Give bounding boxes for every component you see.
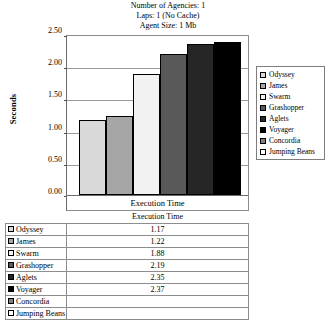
table-swatch-icon xyxy=(8,238,14,244)
table-cell-name: Jumping Beans xyxy=(6,307,67,319)
table-cell-value xyxy=(67,307,249,319)
table-cell-name: Swarm xyxy=(6,247,67,259)
table-row: Voyager2.37 xyxy=(6,283,249,295)
chart-title-line-1: Number of Agencies: 1 xyxy=(88,1,248,11)
table-cell-value: 1.17 xyxy=(67,223,249,235)
bar xyxy=(160,54,187,195)
table-row: Jumping Beans xyxy=(6,307,249,319)
table-cell-value xyxy=(67,295,249,307)
table-row-label: James xyxy=(16,237,36,246)
chart-title-line-3: Agent Size: 1 Mb xyxy=(88,21,248,31)
bar xyxy=(187,44,214,195)
bar-group xyxy=(67,36,248,195)
data-table: Execution TimeOdyssey1.17James1.22Swarm1… xyxy=(5,211,249,320)
y-tick-label: 0.50 xyxy=(30,156,62,164)
legend-item-label: Grashopper xyxy=(269,103,304,112)
y-tick-label: 1.00 xyxy=(30,124,62,132)
bar xyxy=(79,120,106,195)
table-swatch-icon xyxy=(8,226,14,232)
bar xyxy=(106,116,133,195)
table-swatch-icon xyxy=(8,262,14,268)
legend-swatch-icon xyxy=(260,138,266,144)
legend-swatch-icon xyxy=(260,127,266,133)
legend-item-label: Swarm xyxy=(269,92,290,101)
table-header-row: Execution Time xyxy=(6,211,249,223)
legend-swatch-icon xyxy=(260,83,266,89)
table-row-label: Concordia xyxy=(16,297,49,306)
table-row-label: Swarm xyxy=(16,249,39,258)
legend-item-label: James xyxy=(269,81,287,90)
legend-swatch-icon xyxy=(260,94,266,100)
legend-item: Odyssey xyxy=(260,69,322,80)
legend-item: Voyager xyxy=(260,124,322,135)
y-tick-label: 2.00 xyxy=(30,59,62,67)
legend-item-label: Jumping Beans xyxy=(269,147,315,156)
table-row: Grashopper2.19 xyxy=(6,259,249,271)
table-row-label: Voyager xyxy=(16,285,43,294)
table-row: Aglets2.35 xyxy=(6,271,249,283)
table-swatch-icon xyxy=(8,298,14,304)
legend-item: Concordia xyxy=(260,135,322,146)
legend-item: James xyxy=(260,80,322,91)
table-cell-name: Aglets xyxy=(6,271,67,283)
table-row: Concordia xyxy=(6,295,249,307)
table-corner-cell xyxy=(6,211,67,223)
chart-legend: OdysseyJamesSwarmGrashopperAgletsVoyager… xyxy=(256,66,325,160)
legend-item-label: Odyssey xyxy=(269,70,295,79)
legend-item: Swarm xyxy=(260,91,322,102)
legend-item-label: Aglets xyxy=(269,114,289,123)
y-axis-title: Seconds xyxy=(8,79,18,139)
table-swatch-icon xyxy=(8,250,14,256)
legend-swatch-icon xyxy=(260,72,266,78)
table-cell-value: 1.88 xyxy=(67,247,249,259)
table-cell-value: 2.37 xyxy=(67,283,249,295)
table-row-label: Jumping Beans xyxy=(16,309,65,318)
y-tick-label: 1.50 xyxy=(30,91,62,99)
table-header-execution-time: Execution Time xyxy=(67,211,249,223)
table-cell-value: 2.35 xyxy=(67,271,249,283)
legend-item: Aglets xyxy=(260,113,322,124)
legend-item-label: Concordia xyxy=(269,136,300,145)
legend-swatch-icon xyxy=(260,105,266,111)
legend-item-label: Voyager xyxy=(269,125,294,134)
category-axis-label: Execution Time xyxy=(66,196,249,211)
chart-title-line-2: Laps: 1 (No Cache) xyxy=(88,11,248,21)
table-row: Odyssey1.17 xyxy=(6,223,249,235)
table-cell-name: Voyager xyxy=(6,283,67,295)
chart-title: Number of Agencies: 1 Laps: 1 (No Cache)… xyxy=(88,1,248,31)
table-row: Swarm1.88 xyxy=(6,247,249,259)
table-cell-name: Grashopper xyxy=(6,259,67,271)
legend-swatch-icon xyxy=(260,149,266,155)
table-cell-name: Concordia xyxy=(6,295,67,307)
table-cell-value: 1.22 xyxy=(67,235,249,247)
y-axis-tick-labels: 2.502.001.501.000.500.00 xyxy=(30,31,62,197)
y-tick-label: 2.50 xyxy=(30,27,62,35)
bar xyxy=(214,42,241,195)
legend-item: Grashopper xyxy=(260,102,322,113)
bar xyxy=(133,74,160,195)
legend-item: Jumping Beans xyxy=(260,146,322,157)
table-swatch-icon xyxy=(8,310,14,316)
plot-area xyxy=(66,35,249,196)
y-tick-label: 0.00 xyxy=(30,188,62,196)
table-row-label: Odyssey xyxy=(16,225,44,234)
table-row-label: Aglets xyxy=(16,273,37,282)
table-cell-value: 2.19 xyxy=(67,259,249,271)
table-swatch-icon xyxy=(8,274,14,280)
table-cell-name: James xyxy=(6,235,67,247)
table-row-label: Grashopper xyxy=(16,261,53,270)
legend-swatch-icon xyxy=(260,116,266,122)
table-swatch-icon xyxy=(8,286,14,292)
table-row: James1.22 xyxy=(6,235,249,247)
table-cell-name: Odyssey xyxy=(6,223,67,235)
